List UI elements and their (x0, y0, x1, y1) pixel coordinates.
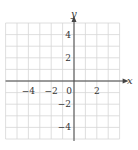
y-tick-label: −4 (58, 122, 72, 132)
y-tick-label: −2 (58, 99, 71, 109)
y-tick-label: 4 (65, 30, 71, 40)
x-axis-label: x (127, 75, 133, 86)
coordinate-grid: −4−20242−2−4 x y (0, 0, 138, 150)
x-tick-label: −4 (22, 86, 36, 96)
x-tick-label: 0 (66, 86, 72, 96)
x-tick-label: 2 (94, 86, 100, 96)
y-axis-label: y (70, 8, 77, 19)
y-tick-label: 2 (65, 53, 71, 63)
x-tick-label: −2 (45, 86, 58, 96)
